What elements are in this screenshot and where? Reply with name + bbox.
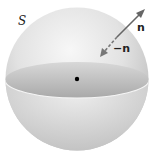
- surface-label: S: [18, 15, 26, 27]
- inward-normal-label: −n: [113, 43, 130, 54]
- outward-normal-label: n: [137, 22, 145, 33]
- center-point: [75, 77, 79, 81]
